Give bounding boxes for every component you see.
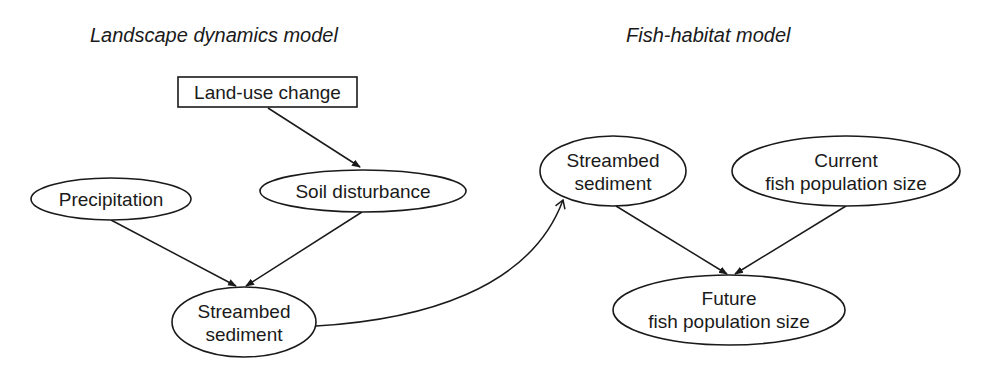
node-current-fish-population: Current fish population size	[732, 136, 960, 206]
node-land-use-change: Land-use change	[178, 77, 357, 107]
edge-current-fish-to-future-fish	[735, 206, 846, 274]
node-label-line-2: sediment	[205, 324, 283, 345]
node-label-line-1: Streambed	[567, 150, 660, 171]
node-label: Land-use change	[194, 82, 341, 103]
node-label-line-2: fish population size	[648, 311, 810, 332]
node-label: Precipitation	[59, 189, 164, 210]
edge-sediment-to-future-fish	[616, 206, 727, 274]
node-streambed-sediment-left: Streambed sediment	[172, 287, 316, 357]
node-label-line-2: sediment	[574, 173, 652, 194]
node-label-line-1: Streambed	[198, 301, 291, 322]
node-future-fish-population: Future fish population size	[613, 275, 845, 345]
node-label-line-1: Current	[814, 150, 878, 171]
edge-precipitation-to-sediment	[111, 220, 236, 286]
edge-soil-to-sediment	[246, 212, 362, 286]
title-fish-habitat-model: Fish-habitat model	[626, 24, 791, 46]
node-label-line-2: fish population size	[765, 173, 927, 194]
title-landscape-dynamics-model: Landscape dynamics model	[90, 24, 338, 46]
node-soil-disturbance: Soil disturbance	[260, 170, 466, 212]
edge-sediment-left-to-sediment-right	[316, 200, 563, 326]
node-label: Soil disturbance	[295, 181, 430, 202]
node-precipitation: Precipitation	[31, 178, 191, 220]
node-streambed-sediment-right: Streambed sediment	[540, 136, 686, 206]
bayesian-network-diagram: Landscape dynamics model Fish-habitat mo…	[0, 0, 983, 370]
edge-landuse-to-soil	[268, 108, 360, 167]
node-label-line-1: Future	[702, 288, 757, 309]
